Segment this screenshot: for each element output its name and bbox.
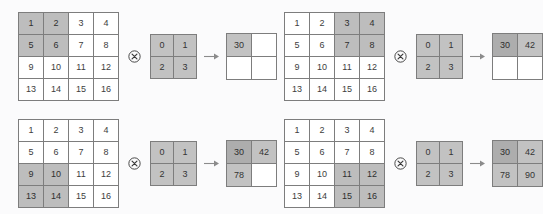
matrix-cell: 11 bbox=[335, 164, 359, 185]
matrix-cell: 10 bbox=[310, 57, 334, 78]
matrix-cell: 2 bbox=[44, 13, 68, 34]
matrix-cell: 1 bbox=[19, 120, 43, 141]
panel-2-input-matrix: 12345678910111213141516 bbox=[18, 119, 119, 208]
matrix-cell: 7 bbox=[335, 142, 359, 163]
matrix-cell: 1 bbox=[440, 142, 462, 163]
matrix-cell: 0 bbox=[151, 142, 173, 163]
matrix-cell: 9 bbox=[19, 57, 43, 78]
matrix-cell: 11 bbox=[335, 57, 359, 78]
matrix-cell: 13 bbox=[285, 186, 309, 207]
matrix-cell: 1 bbox=[174, 142, 196, 163]
matrix-cell: 14 bbox=[310, 186, 334, 207]
matrix-cell: 7 bbox=[69, 35, 93, 56]
matrix-cell: 5 bbox=[19, 35, 43, 56]
matrix-cell: 1 bbox=[19, 13, 43, 34]
matrix-cell: 9 bbox=[285, 164, 309, 185]
circled-times-icon bbox=[128, 50, 141, 63]
matrix-cell: 16 bbox=[360, 79, 384, 100]
matrix-cell: 6 bbox=[44, 35, 68, 56]
circled-times-icon bbox=[128, 157, 141, 170]
matrix-cell: 12 bbox=[94, 57, 118, 78]
convolution-step-panel: 123456789101112131415160123304278 bbox=[18, 119, 277, 208]
panel-3-output-matrix: 30427890 bbox=[492, 140, 543, 187]
panel-1-kernel-matrix: 0123 bbox=[416, 34, 463, 79]
matrix-cell: 1 bbox=[174, 35, 196, 56]
matrix-cell: 1 bbox=[440, 35, 462, 56]
matrix-cell: 15 bbox=[69, 186, 93, 207]
matrix-cell: 1 bbox=[285, 120, 309, 141]
matrix-cell: 3 bbox=[335, 120, 359, 141]
matrix-cell: 1 bbox=[285, 13, 309, 34]
matrix-cell: 78 bbox=[227, 164, 251, 186]
matrix-cell bbox=[493, 57, 517, 79]
matrix-cell bbox=[518, 57, 542, 79]
matrix-cell: 4 bbox=[360, 13, 384, 34]
matrix-cell: 6 bbox=[44, 142, 68, 163]
matrix-cell: 4 bbox=[94, 120, 118, 141]
matrix-cell: 16 bbox=[360, 186, 384, 207]
matrix-cell: 5 bbox=[19, 142, 43, 163]
matrix-cell: 0 bbox=[151, 35, 173, 56]
matrix-cell bbox=[227, 57, 251, 79]
matrix-cell: 16 bbox=[94, 79, 118, 100]
matrix-cell: 12 bbox=[360, 57, 384, 78]
matrix-cell: 10 bbox=[44, 164, 68, 185]
matrix-cell: 14 bbox=[44, 186, 68, 207]
matrix-cell: 2 bbox=[417, 164, 439, 185]
panel-3-kernel-matrix: 0123 bbox=[416, 141, 463, 186]
matrix-cell: 13 bbox=[19, 186, 43, 207]
circled-times-icon bbox=[394, 50, 407, 63]
matrix-cell: 7 bbox=[69, 142, 93, 163]
matrix-cell: 10 bbox=[44, 57, 68, 78]
matrix-cell: 3 bbox=[69, 13, 93, 34]
matrix-cell bbox=[252, 164, 276, 186]
matrix-cell: 5 bbox=[285, 142, 309, 163]
convolution-step-panel: 12345678910111213141516012330 bbox=[18, 12, 277, 101]
circled-times-icon bbox=[394, 157, 407, 170]
matrix-cell: 15 bbox=[335, 79, 359, 100]
matrix-cell: 0 bbox=[417, 35, 439, 56]
panel-1-input-matrix: 12345678910111213141516 bbox=[284, 12, 385, 101]
matrix-cell: 12 bbox=[94, 164, 118, 185]
matrix-cell: 30 bbox=[227, 141, 251, 163]
matrix-cell: 42 bbox=[518, 34, 542, 56]
panel-2-output-matrix: 304278 bbox=[226, 140, 277, 187]
matrix-cell: 11 bbox=[69, 164, 93, 185]
right-arrow-icon bbox=[470, 159, 486, 168]
matrix-cell: 3 bbox=[440, 164, 462, 185]
matrix-cell: 2 bbox=[310, 120, 334, 141]
matrix-cell: 11 bbox=[69, 57, 93, 78]
panel-2-kernel-matrix: 0123 bbox=[150, 141, 197, 186]
matrix-cell: 3 bbox=[69, 120, 93, 141]
matrix-cell: 13 bbox=[19, 79, 43, 100]
matrix-cell: 3 bbox=[440, 57, 462, 78]
matrix-cell: 12 bbox=[360, 164, 384, 185]
matrix-cell: 9 bbox=[19, 164, 43, 185]
matrix-cell: 30 bbox=[493, 141, 517, 163]
matrix-cell: 3 bbox=[174, 164, 196, 185]
matrix-cell: 7 bbox=[335, 35, 359, 56]
matrix-cell: 42 bbox=[518, 141, 542, 163]
matrix-cell: 2 bbox=[151, 164, 173, 185]
matrix-cell: 8 bbox=[360, 142, 384, 163]
matrix-cell: 13 bbox=[285, 79, 309, 100]
matrix-cell: 8 bbox=[360, 35, 384, 56]
matrix-cell: 10 bbox=[310, 164, 334, 185]
matrix-cell: 6 bbox=[310, 142, 334, 163]
matrix-cell: 30 bbox=[227, 34, 251, 56]
matrix-cell: 8 bbox=[94, 35, 118, 56]
convolution-step-panel: 12345678910111213141516012330427890 bbox=[284, 119, 543, 208]
matrix-cell: 8 bbox=[94, 142, 118, 163]
matrix-cell: 9 bbox=[285, 57, 309, 78]
matrix-cell: 14 bbox=[44, 79, 68, 100]
panel-0-input-matrix: 12345678910111213141516 bbox=[18, 12, 119, 101]
panel-1-output-matrix: 3042 bbox=[492, 33, 543, 80]
matrix-cell: 15 bbox=[69, 79, 93, 100]
matrix-cell: 16 bbox=[94, 186, 118, 207]
matrix-cell: 4 bbox=[360, 120, 384, 141]
matrix-cell: 90 bbox=[518, 164, 542, 186]
right-arrow-icon bbox=[204, 159, 220, 168]
matrix-cell bbox=[252, 57, 276, 79]
matrix-cell bbox=[252, 34, 276, 56]
matrix-cell: 30 bbox=[493, 34, 517, 56]
